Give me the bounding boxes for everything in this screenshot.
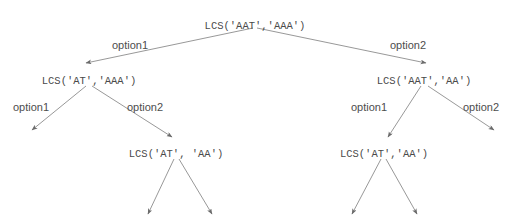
edge-label-l1-option2: option2 bbox=[127, 101, 163, 114]
edge-l2-to-right bbox=[179, 159, 212, 214]
edge-label-root-option1: option1 bbox=[112, 39, 148, 52]
tree-node-l1: LCS('AT','AAA') bbox=[42, 75, 137, 87]
tree-node-root: LCS('AAT','AAA') bbox=[205, 20, 306, 32]
edge-r1-to-r2 bbox=[388, 86, 421, 137]
tree-node-r1: LCS('AAT','AA') bbox=[377, 75, 472, 87]
tree-node-l2: LCS('AT', 'AA') bbox=[129, 148, 224, 160]
tree-node-r2: LCS('AT','AA') bbox=[340, 148, 428, 160]
edge-label-root-option2: option2 bbox=[390, 39, 426, 52]
edge-r2-to-left bbox=[352, 159, 381, 214]
edge-layer bbox=[0, 0, 523, 224]
edge-r2-to-right bbox=[386, 159, 417, 214]
edge-group bbox=[32, 28, 494, 214]
edge-label-r1-option1: option1 bbox=[351, 101, 387, 114]
edge-l2-to-left bbox=[148, 159, 174, 214]
edge-label-r1-option2: option2 bbox=[463, 101, 499, 114]
recursion-tree-diagram: LCS('AAT','AAA')LCS('AT','AAA')LCS('AAT'… bbox=[0, 0, 523, 224]
edge-label-l1-option1: option1 bbox=[13, 101, 49, 114]
